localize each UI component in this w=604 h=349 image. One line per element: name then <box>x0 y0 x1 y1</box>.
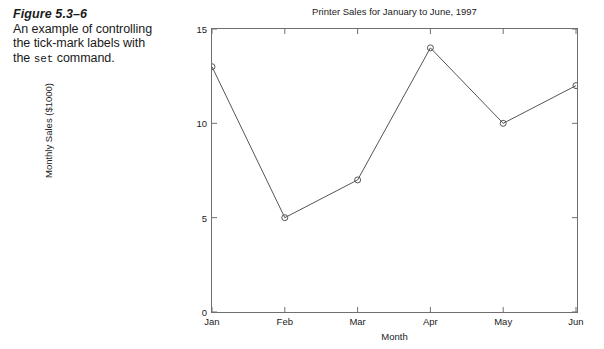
series-polyline <box>212 48 576 218</box>
line-series-svg <box>212 29 577 312</box>
y-tick-label: 10 <box>187 118 207 129</box>
x-axis-label: Month <box>211 331 578 342</box>
y-tick-label: 5 <box>187 212 207 223</box>
chart-title: Printer Sales for January to June, 1997 <box>211 6 578 17</box>
y-tick-label: 15 <box>187 24 207 35</box>
y-axis-label: Monthly Sales ($1000) <box>43 41 54 221</box>
x-tick-label: Jun <box>568 316 583 327</box>
x-tick-label: Feb <box>277 316 293 327</box>
y-axis-tick-labels: 051015 <box>183 28 207 313</box>
axis-tick-marks <box>212 29 577 312</box>
chart-figure: Printer Sales for January to June, 1997 … <box>0 0 604 349</box>
x-tick-label: Apr <box>423 316 438 327</box>
plot-area <box>211 28 578 313</box>
x-tick-label: Jan <box>204 316 219 327</box>
x-tick-label: Mar <box>349 316 365 327</box>
data-point-markers <box>212 45 577 221</box>
x-axis-tick-labels: JanFebMarAprMayJun <box>211 316 578 332</box>
x-tick-label: May <box>494 316 512 327</box>
